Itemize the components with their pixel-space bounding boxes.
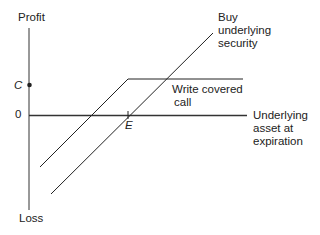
loss-label: Loss	[19, 212, 43, 225]
buy-label-line: underlying	[218, 24, 271, 37]
covered-call-label: Write covered call	[172, 83, 243, 109]
buy-underlying-line	[51, 33, 213, 194]
c-point-marker	[27, 83, 32, 88]
buy-label-line: security	[218, 37, 271, 50]
x-axis-label: Underlying asset at expiration	[253, 109, 308, 148]
buy-underlying-label: Buy underlying security	[218, 11, 271, 50]
e-label: E	[125, 119, 133, 132]
c-label: C	[14, 79, 22, 92]
covered-call-label-line: Write covered	[172, 83, 243, 96]
covered-call-label-line: call	[172, 96, 243, 109]
profit-label: Profit	[18, 11, 45, 24]
buy-label-line: Buy	[218, 11, 271, 24]
zero-label: 0	[15, 108, 21, 121]
x-axis-label-line: Underlying	[253, 109, 308, 122]
x-axis-label-line: expiration	[253, 135, 308, 148]
x-axis-label-line: asset at	[253, 122, 308, 135]
